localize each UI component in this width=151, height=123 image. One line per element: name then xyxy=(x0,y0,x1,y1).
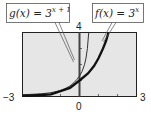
chart-svg: g(x) = 3x + 1 f(x) = 3x 4 −3 3 0 xyxy=(0,0,151,123)
x-min-label: −3 xyxy=(3,92,15,103)
y-max-label: 4 xyxy=(76,21,82,32)
f-label: f(x) = 3x xyxy=(94,6,139,19)
x-zero-label: 0 xyxy=(76,101,82,112)
x-max-label: 3 xyxy=(140,92,146,103)
